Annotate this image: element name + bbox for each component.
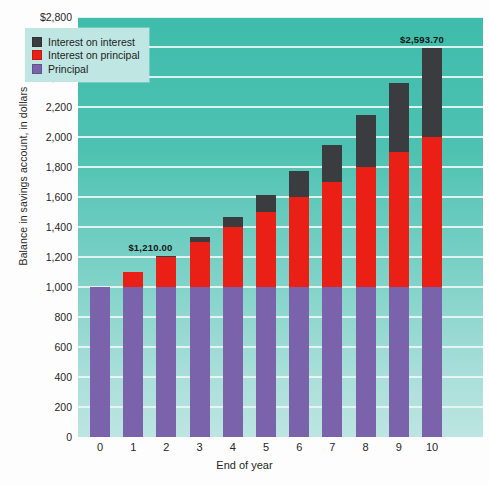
bar-segment-interest-on-principal — [422, 137, 442, 287]
bar — [322, 17, 342, 437]
bar-segment-principal — [389, 287, 409, 437]
y-tick-label: 200 — [0, 401, 72, 413]
y-tick-label: 800 — [0, 311, 72, 323]
x-axis-title: End of year — [0, 459, 489, 471]
bar — [190, 17, 210, 437]
y-tick-label: 1,600 — [0, 191, 72, 203]
y-tick-label: 2,200 — [0, 101, 72, 113]
bar — [256, 17, 276, 437]
bar-segment-interest-on-interest — [389, 83, 409, 152]
bar — [156, 17, 176, 437]
bar-segment-principal — [322, 287, 342, 437]
bar-segment-interest-on-principal — [389, 152, 409, 287]
y-tick-label: $2,800 — [0, 11, 72, 23]
bar — [389, 17, 409, 437]
bar — [289, 17, 309, 437]
legend-swatch-icon — [32, 50, 42, 60]
legend-item: Interest on interest — [32, 36, 140, 48]
y-tick-label: 2,000 — [0, 131, 72, 143]
bar-segment-principal — [356, 287, 376, 437]
chart-figure: Balance in savings account, in dollars $… — [0, 0, 489, 485]
bar-segment-interest-on-interest — [289, 171, 309, 197]
bar-segment-principal — [90, 287, 110, 437]
bar-segment-interest-on-interest — [422, 48, 442, 137]
legend-swatch-icon — [32, 64, 42, 74]
legend-item: Interest on principal — [32, 49, 140, 61]
bar-segment-interest-on-principal — [322, 182, 342, 287]
y-tick-label: 1,400 — [0, 221, 72, 233]
bar-segment-principal — [156, 287, 176, 437]
bar — [422, 17, 442, 437]
bar-segment-interest-on-principal — [356, 167, 376, 287]
legend-label: Interest on interest — [48, 36, 135, 48]
bar-segment-interest-on-principal — [190, 242, 210, 287]
bar-segment-principal — [123, 287, 143, 437]
bar-segment-principal — [190, 287, 210, 437]
y-tick-label: 600 — [0, 341, 72, 353]
bar-segment-principal — [256, 287, 276, 437]
y-tick-label: 1,000 — [0, 281, 72, 293]
bar-segment-interest-on-interest — [356, 115, 376, 167]
bar-segment-interest-on-principal — [123, 272, 143, 287]
legend-item: Principal — [32, 63, 140, 75]
bar-segment-interest-on-interest — [223, 217, 243, 227]
bar-segment-principal — [223, 287, 243, 437]
bar-segment-principal — [289, 287, 309, 437]
x-tick-label: 10 — [412, 441, 452, 453]
legend-swatch-icon — [32, 37, 42, 47]
chart-legend: Interest on interestInterest on principa… — [25, 28, 149, 82]
bar-segment-interest-on-interest — [156, 256, 176, 258]
legend-label: Principal — [48, 63, 88, 75]
bar-segment-interest-on-interest — [256, 195, 276, 212]
y-tick-label: 1,200 — [0, 251, 72, 263]
bar-segment-principal — [422, 287, 442, 437]
bar — [223, 17, 243, 437]
bar-segment-interest-on-principal — [223, 227, 243, 287]
bar-value-label: $2,593.70 — [400, 34, 444, 45]
bar — [356, 17, 376, 437]
bar-segment-interest-on-interest — [322, 145, 342, 182]
bar-segment-interest-on-principal — [156, 257, 176, 287]
bar-segment-interest-on-principal — [256, 212, 276, 287]
y-tick-label: 1,800 — [0, 161, 72, 173]
legend-label: Interest on principal — [48, 49, 140, 61]
y-tick-label: 400 — [0, 371, 72, 383]
bar-segment-interest-on-interest — [190, 237, 210, 242]
bar-value-label: $1,210.00 — [128, 242, 172, 253]
bar-segment-interest-on-principal — [289, 197, 309, 287]
y-tick-label: 0 — [0, 431, 72, 443]
